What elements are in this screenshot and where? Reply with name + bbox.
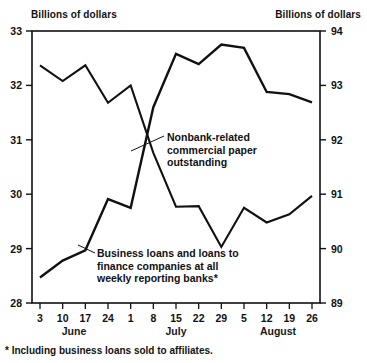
right-tick-label: 90 xyxy=(331,243,353,255)
left-tick-label: 28 xyxy=(0,297,22,309)
left-axis-ticks xyxy=(26,31,32,303)
right-axis-title: Billions of dollars xyxy=(275,9,361,20)
annotation-line: outstanding xyxy=(167,156,257,169)
annotation-commercial-paper: Nonbank-relatedcommercial paperoutstandi… xyxy=(167,131,257,169)
left-tick-label: 30 xyxy=(0,188,22,200)
plot-canvas xyxy=(0,0,367,363)
left-axis-title: Billions of dollars xyxy=(31,9,117,20)
x-month-label: June xyxy=(51,325,97,337)
x-tick-label: 12 xyxy=(257,312,277,324)
x-tick-label: 3 xyxy=(30,312,50,324)
right-axis-ticks xyxy=(320,31,326,303)
x-tick-label: 10 xyxy=(53,312,73,324)
annotation-business-loans: Business loans and loans tofinance compa… xyxy=(97,247,239,285)
annotation-line: finance companies at all xyxy=(97,260,239,273)
annotation-line: commercial paper xyxy=(167,144,257,157)
x-tick-label: 5 xyxy=(234,312,254,324)
annotation-line: Nonbank-related xyxy=(167,131,257,144)
x-month-label: August xyxy=(255,325,301,337)
left-tick-label: 29 xyxy=(0,243,22,255)
right-tick-label: 92 xyxy=(331,134,353,146)
x-tick-label: 17 xyxy=(75,312,95,324)
chart-footnote: * Including business loans sold to affil… xyxy=(5,345,213,356)
annotation-line: Business loans and loans to xyxy=(97,247,239,260)
x-tick-label: 24 xyxy=(98,312,118,324)
x-month-label: July xyxy=(153,325,199,337)
x-tick-label: 26 xyxy=(302,312,322,324)
x-tick-label: 22 xyxy=(189,312,209,324)
right-tick-label: 91 xyxy=(331,188,353,200)
x-axis-ticks xyxy=(40,303,312,309)
left-tick-label: 31 xyxy=(0,134,22,146)
left-tick-label: 33 xyxy=(0,25,22,37)
x-tick-label: 29 xyxy=(211,312,231,324)
right-tick-label: 93 xyxy=(331,79,353,91)
x-tick-label: 19 xyxy=(279,312,299,324)
right-tick-label: 89 xyxy=(331,297,353,309)
x-tick-label: 15 xyxy=(166,312,186,324)
x-tick-label: 1 xyxy=(121,312,141,324)
chart-figure: Billions of dollars Billions of dollars … xyxy=(0,0,367,363)
left-tick-label: 32 xyxy=(0,79,22,91)
x-tick-label: 8 xyxy=(143,312,163,324)
right-tick-label: 94 xyxy=(331,25,353,37)
annotation-line: weekly reporting banks* xyxy=(97,272,239,285)
